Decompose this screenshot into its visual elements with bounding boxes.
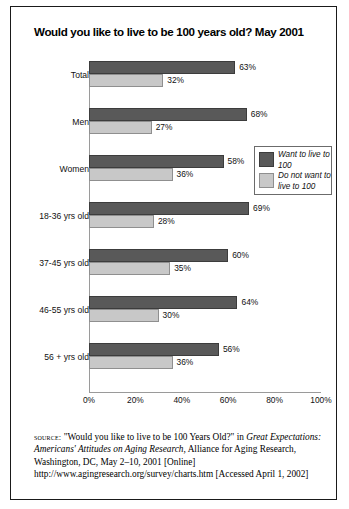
bar-1-3 [89,215,154,228]
category-label-5: 46-55 yrs old [0,305,89,315]
bar-value-label: 58% [228,155,245,168]
category-label-2: Women [0,164,89,174]
legend-label-want: Want to live to 100 [278,150,336,171]
category-label-3: 18-36 yrs old [0,211,89,221]
bar-1-4 [89,262,170,275]
bar-1-1 [89,121,152,134]
bar-0-1 [89,108,247,121]
bar-value-label: 30% [163,309,180,322]
bar-value-label: 68% [251,108,268,121]
x-tick-40%: 40% [162,395,202,405]
x-axis-line [89,392,321,393]
bar-value-label: 63% [239,61,256,74]
bar-0-5 [89,296,237,309]
bar-1-5 [89,309,159,322]
bar-0-0 [89,61,235,74]
figure-frame: Would you like to live to be 100 years o… [10,6,337,500]
bar-1-0 [89,74,163,87]
bar-value-label: 28% [158,215,175,228]
source-label: source: [34,432,61,442]
bar-0-6 [89,343,219,356]
category-label-1: Men [0,117,89,127]
bar-value-label: 27% [156,121,173,134]
bar-value-label: 36% [177,356,194,369]
bar-value-label: 60% [232,249,249,262]
x-tick-60%: 60% [208,395,248,405]
bar-0-2 [89,155,224,168]
bar-1-2 [89,168,173,181]
chart-plot-area: 63%32%68%27%58%36%69%28%60%35%64%30%56%3… [11,59,349,399]
chart-legend: Want to live to 100 Do not want to live … [254,146,332,195]
bar-value-label: 35% [174,262,191,275]
legend-swatch-donotwant [259,173,274,188]
x-tick-20%: 20% [115,395,155,405]
legend-item-donotwant: Do not want to live to 100 [259,172,331,193]
x-tick-100%: 100% [301,395,341,405]
bar-1-6 [89,356,173,369]
category-label-4: 37-45 yrs old [0,258,89,268]
bar-0-3 [89,202,249,215]
source-note: source: "Would you like to live to be 10… [34,431,322,481]
legend-item-want: Want to live to 100 [259,151,331,172]
source-quote: "Would you like to live to be 100 Years … [64,432,235,442]
legend-label-donotwant: Do not want to live to 100 [278,171,336,192]
category-label-0: Total [0,70,89,80]
bar-value-label: 36% [177,168,194,181]
bar-value-label: 64% [241,296,258,309]
chart-title: Would you like to live to be 100 years o… [34,25,334,38]
x-tick-80%: 80% [255,395,295,405]
category-label-6: 56 + yrs old [0,352,89,362]
bar-value-label: 69% [253,202,270,215]
bar-value-label: 56% [223,343,240,356]
x-tick-0%: 0% [69,395,109,405]
bar-0-4 [89,249,228,262]
source-in: in [237,432,244,442]
legend-swatch-want [259,152,274,167]
bar-value-label: 32% [167,74,184,87]
